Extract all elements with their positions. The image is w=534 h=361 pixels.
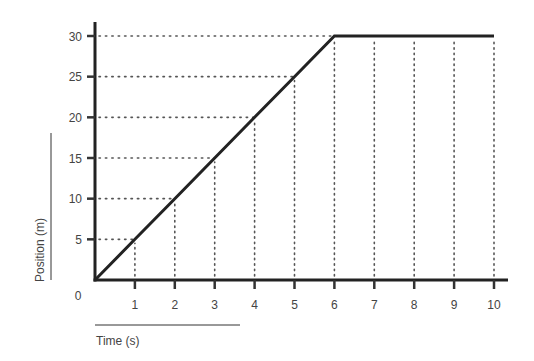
x-tick-label: 10 xyxy=(487,298,501,312)
ticks: 5101520253012345678910 xyxy=(69,30,501,313)
position-time-chart: 5101520253012345678910 0 Position (m) Ti… xyxy=(0,0,534,361)
y-tick-label: 15 xyxy=(69,152,83,166)
x-tick-label: 9 xyxy=(451,298,458,312)
axes xyxy=(94,22,509,282)
x-axis-label: Time (s) xyxy=(96,334,140,348)
y-tick-label: 10 xyxy=(69,192,83,206)
x-tick-label: 8 xyxy=(411,298,418,312)
x-tick-label: 1 xyxy=(132,298,139,312)
x-tick-label: 2 xyxy=(171,298,178,312)
y-tick-label: 30 xyxy=(69,30,83,44)
x-tick-label: 5 xyxy=(291,298,298,312)
y-tick-label: 25 xyxy=(69,70,83,84)
y-axis-label: Position (m) xyxy=(33,218,47,282)
x-tick-label: 7 xyxy=(371,298,378,312)
x-tick-label: 6 xyxy=(331,298,338,312)
x-tick-label: 4 xyxy=(251,298,258,312)
y-tick-label: 20 xyxy=(69,111,83,125)
x-tick-label: 3 xyxy=(211,298,218,312)
origin-label: 0 xyxy=(75,289,82,303)
dotted-grid xyxy=(99,36,494,276)
y-tick-label: 5 xyxy=(75,233,82,247)
